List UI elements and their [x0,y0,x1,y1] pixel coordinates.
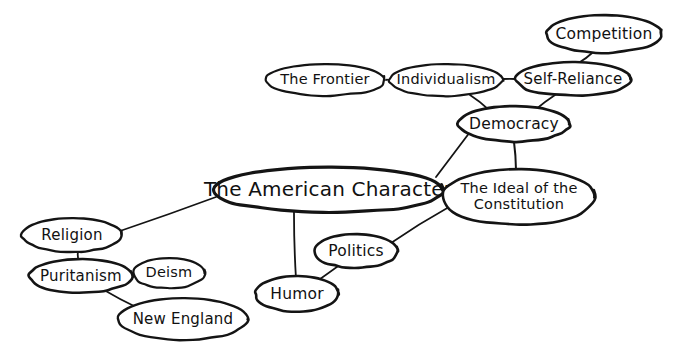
node-label-ideal_constitution: The Ideal of the [459,180,577,196]
node-self_reliance[interactable]: Self-Reliance [515,62,631,96]
node-ideal_constitution[interactable]: The Ideal of theConstitution [443,169,596,225]
concept-map-canvas: The American CharacterThe FrontierIndivi… [0,0,687,357]
node-puritanism[interactable]: Puritanism [28,259,133,293]
node-label-american_character: The American Character [203,177,453,201]
edge-character-humor [294,212,296,279]
node-label-competition: Competition [555,25,652,43]
node-label-democracy: Democracy [469,115,559,133]
node-religion[interactable]: Religion [21,218,122,252]
node-label-puritanism: Puritanism [40,267,122,285]
node-label-ideal_constitution: Constitution [474,196,565,212]
edge-democracy-ideal [514,142,516,170]
edge-politics-ideal [391,207,449,243]
concept-map-svg: The American CharacterThe FrontierIndivi… [0,0,687,357]
node-label-the_frontier: The Frontier [279,71,370,87]
node-american_character[interactable]: The American Character [203,167,453,212]
edge-democracy-character [436,132,470,177]
node-humor[interactable]: Humor [255,276,339,312]
edge-puritanism-newengland [104,290,136,307]
node-label-deism: Deism [146,264,193,280]
node-label-religion: Religion [41,226,102,244]
node-deism[interactable]: Deism [133,258,205,288]
node-label-new_england: New England [133,310,234,328]
node-democracy[interactable]: Democracy [457,106,570,142]
node-label-individualism: Individualism [397,71,496,87]
node-label-humor: Humor [270,285,324,303]
node-layer: The American CharacterThe FrontierIndivi… [21,15,661,340]
node-the_frontier[interactable]: The Frontier [266,64,385,96]
node-label-self_reliance: Self-Reliance [524,70,623,88]
node-label-politics: Politics [328,242,383,260]
node-politics[interactable]: Politics [315,234,399,268]
node-individualism[interactable]: Individualism [389,64,504,96]
edge-religion-character [120,197,216,231]
node-new_england[interactable]: New England [118,298,249,340]
node-competition[interactable]: Competition [546,15,661,53]
edge-selfreliance-competition [580,53,592,62]
